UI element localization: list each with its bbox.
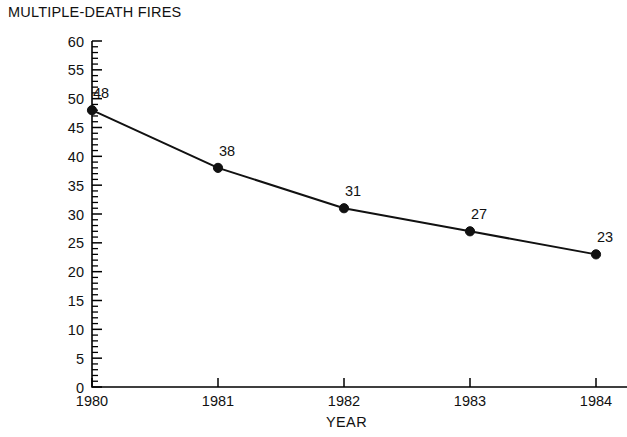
y-tick-label: 10 xyxy=(68,322,84,338)
data-point-marker xyxy=(591,250,600,259)
x-tick-label: 1980 xyxy=(76,393,108,409)
y-tick-label: 20 xyxy=(68,264,84,280)
y-tick-label: 55 xyxy=(68,62,84,78)
y-tick-label: 35 xyxy=(68,178,84,194)
axis-frame xyxy=(92,41,627,387)
data-point-label: 48 xyxy=(93,85,109,101)
x-axis-tick-labels: 19801981198219831984 xyxy=(76,393,612,409)
x-axis-title: YEAR xyxy=(326,414,367,430)
y-tick-label: 30 xyxy=(68,207,84,223)
data-point-label: 31 xyxy=(345,183,361,199)
y-axis-tick-labels: 051015202530354045505560 xyxy=(68,34,84,396)
axis-lines xyxy=(92,41,627,387)
data-point-marker xyxy=(87,106,96,115)
line-chart-plot: 051015202530354045505560 198019811982198… xyxy=(0,0,627,437)
x-axis-title-wrap: YEAR xyxy=(0,414,627,430)
data-point-marker xyxy=(465,227,474,236)
y-tick-label: 15 xyxy=(68,293,84,309)
y-tick-label: 60 xyxy=(68,34,84,50)
data-point-labels: 4838312723 xyxy=(93,85,613,245)
y-tick-label: 50 xyxy=(68,91,84,107)
x-tick-label: 1983 xyxy=(454,393,486,409)
data-point-marker xyxy=(339,204,348,213)
data-point-label: 23 xyxy=(597,229,613,245)
x-tick-label: 1981 xyxy=(202,393,234,409)
data-point-label: 27 xyxy=(471,206,487,222)
y-tick-label: 25 xyxy=(68,235,84,251)
x-tick-label: 1982 xyxy=(328,393,360,409)
data-point-label: 38 xyxy=(219,143,235,159)
x-tick-label: 1984 xyxy=(580,393,612,409)
data-point-marker xyxy=(213,163,222,172)
x-axis-ticks xyxy=(92,378,596,387)
y-tick-label: 45 xyxy=(68,120,84,136)
y-tick-label: 40 xyxy=(68,149,84,165)
y-tick-label: 5 xyxy=(76,351,84,367)
chart-container: MULTIPLE-DEATH FIRES 0510152025303540455… xyxy=(0,0,627,437)
